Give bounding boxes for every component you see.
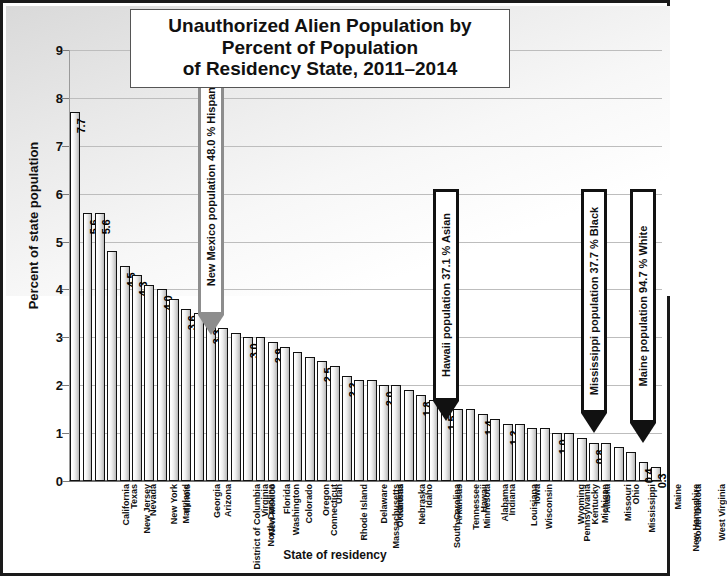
bar[interactable] (218, 328, 228, 481)
y-tick-label: 0 (43, 474, 63, 489)
bar[interactable] (527, 428, 537, 481)
bar[interactable]: 2.0 (379, 385, 389, 481)
bar[interactable] (231, 333, 241, 481)
bar[interactable]: 2.5 (317, 361, 327, 481)
bar[interactable]: 2.2 (342, 376, 352, 481)
bar[interactable]: 1.2 (503, 424, 513, 481)
y-tick-label: 7 (43, 138, 63, 153)
bar-rect (515, 424, 525, 481)
bar[interactable] (293, 352, 303, 481)
bar[interactable]: 5.6 (83, 213, 93, 481)
y-tick-mark (62, 385, 69, 386)
bar-series: 7.75.65.64.54.34.03.63.33.02.92.52.22.01… (69, 50, 662, 481)
bar-rect (132, 275, 142, 481)
bar-rect (280, 347, 290, 481)
x-tick-label: Idaho (424, 484, 434, 508)
y-axis-ticks: 0123456789 (41, 3, 63, 576)
bar[interactable] (466, 409, 476, 481)
bar[interactable] (144, 285, 154, 481)
bar[interactable]: 5.6 (95, 213, 105, 481)
x-tick-label: Oregon (321, 484, 331, 516)
bar[interactable] (354, 380, 364, 481)
x-tick-label: Rhode Island (358, 484, 368, 541)
bar[interactable] (107, 251, 117, 481)
bar[interactable] (391, 385, 401, 481)
bar-rect (107, 251, 117, 481)
bar-rect (95, 213, 105, 481)
bar-rect (243, 337, 253, 481)
y-tick-label: 6 (43, 186, 63, 201)
bar[interactable]: 1.0 (552, 433, 562, 481)
bar[interactable] (515, 424, 525, 481)
bar[interactable] (540, 428, 550, 481)
arrow-head-icon (581, 413, 607, 433)
bar[interactable] (564, 433, 574, 481)
bar[interactable] (169, 299, 179, 481)
y-tick-mark (62, 194, 69, 195)
bar[interactable]: 0.3 (651, 467, 661, 481)
x-tick-label: Maine (673, 484, 683, 510)
bar-rect (120, 266, 130, 482)
bar-rect (404, 390, 414, 481)
y-axis-title: Percent of state population (26, 111, 41, 341)
bar-rect (256, 337, 266, 481)
annotation-text: Mississippi population 37.7 % Black (588, 207, 600, 395)
x-tick-label: Nevada (148, 484, 158, 516)
x-tick-label: New York (169, 484, 179, 524)
x-tick-label: Florida (282, 484, 292, 514)
y-tick-label: 2 (43, 378, 63, 393)
y-tick-mark (62, 337, 69, 338)
bar-rect (490, 419, 500, 481)
bar[interactable] (305, 357, 315, 482)
bar[interactable]: 4.0 (157, 289, 167, 481)
x-tick-label: Texas (129, 484, 139, 509)
bar-rect (527, 428, 537, 481)
bar[interactable]: 3.3 (206, 323, 216, 481)
bar[interactable]: 3.0 (243, 337, 253, 481)
x-tick-label: Indiana (506, 484, 516, 516)
chart-title-box: Unauthorized Alien Population by Percent… (130, 9, 510, 88)
bar[interactable] (194, 313, 204, 481)
bar[interactable] (626, 452, 636, 481)
bar[interactable] (577, 438, 587, 481)
bar[interactable] (330, 366, 340, 481)
mississippi-annotation: Mississippi population 37.7 % Black (581, 189, 607, 433)
bar[interactable]: 1.4 (478, 414, 488, 481)
bar[interactable] (614, 447, 624, 481)
bar-rect (330, 366, 340, 481)
bar[interactable]: 0.4 (639, 462, 649, 481)
x-tick-label: Wyoming (577, 484, 587, 524)
bar[interactable]: 2.9 (268, 342, 278, 481)
bar-rect (231, 333, 241, 481)
bar[interactable] (256, 337, 266, 481)
chart-title-line-3: of Residency State, 2011–2014 (139, 58, 501, 80)
bar-rect (391, 385, 401, 481)
bar[interactable] (280, 347, 290, 481)
bar[interactable]: 1.8 (416, 395, 426, 481)
bar[interactable] (404, 390, 414, 481)
y-tick-label: 9 (43, 43, 63, 58)
bar[interactable] (601, 443, 611, 481)
y-tick-label: 1 (43, 426, 63, 441)
bar-value-label: 5.6 (100, 219, 112, 234)
bar[interactable]: 4.5 (120, 266, 130, 482)
x-tick-label: Iowa (532, 484, 542, 504)
bar-rect (614, 447, 624, 481)
maine-annotation: Maine population 94.7 % White (630, 189, 656, 443)
y-tick-mark (62, 98, 69, 99)
bar[interactable]: 7.7 (70, 112, 80, 481)
bar-rect (206, 323, 216, 481)
x-tick-label: Georgia (212, 484, 222, 518)
bar[interactable]: 3.6 (181, 309, 191, 481)
bar[interactable]: 4.3 (132, 275, 142, 481)
y-tick-mark (62, 433, 69, 434)
bar[interactable] (367, 380, 377, 481)
bar-rect (305, 357, 315, 482)
bar-rect (626, 452, 636, 481)
bar-rect (367, 380, 377, 481)
bar[interactable] (490, 419, 500, 481)
annotation-text: Maine population 94.7 % White (637, 226, 649, 387)
bar-rect (157, 289, 167, 481)
y-tick-label: 3 (43, 330, 63, 345)
bar[interactable]: 0.8 (589, 443, 599, 481)
